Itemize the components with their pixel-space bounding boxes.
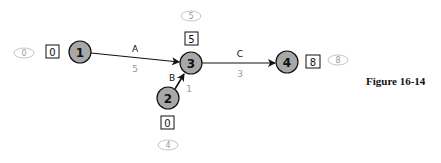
node-2-early-value: 0	[164, 118, 170, 129]
activity-c-label: C	[237, 49, 243, 59]
node-3-late-value: 5	[188, 12, 193, 21]
activity-b-duration: 1	[186, 84, 192, 94]
activity-b-label: B	[169, 73, 175, 83]
node-2-late-value: 4	[165, 141, 170, 150]
activity-arrow-a	[91, 53, 179, 62]
node-2: 2 0 4	[157, 87, 179, 150]
activity-c-duration: 3	[237, 69, 243, 79]
activity-a-duration: 5	[132, 64, 138, 74]
node-4-label: 4	[283, 56, 291, 70]
node-4: 4 8 8	[276, 51, 348, 73]
node-3: 5 5 3	[180, 11, 202, 74]
figure-caption: Figure 16-14	[366, 75, 425, 87]
node-3-early-value: 5	[188, 34, 194, 45]
node-1: 0 0 1	[14, 41, 91, 63]
node-3-label: 3	[187, 57, 195, 71]
activity-a-label: A	[132, 44, 139, 54]
node-1-early-value: 0	[49, 47, 55, 58]
node-1-late-value: 0	[21, 49, 26, 58]
node-1-label: 1	[76, 46, 84, 60]
node-2-label: 2	[164, 92, 172, 106]
node-4-early-value: 8	[310, 57, 316, 68]
node-4-late-value: 8	[335, 56, 340, 65]
activity-arrow-b	[175, 74, 184, 89]
